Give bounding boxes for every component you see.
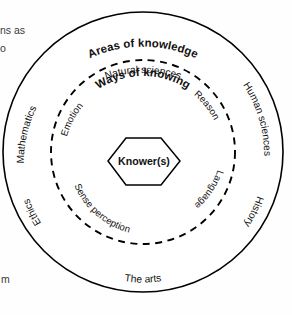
edge-text-fragment-bottom: m <box>1 273 10 285</box>
label-the-arts: The arts <box>124 272 162 284</box>
edge-text-fragment-second: o <box>0 42 6 54</box>
label-knower: Knower(s) <box>118 155 170 167</box>
tok-diagram-svg: Areas of knowledge Natural sciences Huma… <box>0 0 292 315</box>
edge-text-fragment-top: ns as <box>0 24 25 36</box>
tok-diagram: Areas of knowledge Natural sciences Huma… <box>0 0 292 315</box>
